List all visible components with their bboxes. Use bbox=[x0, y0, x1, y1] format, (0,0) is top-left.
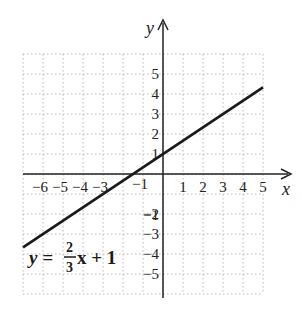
graph: y x −6−5−4−3−11234554321−1−2−3−4−5 y = 2… bbox=[0, 0, 302, 316]
equation-numerator: 2 bbox=[66, 240, 73, 255]
x-tick-label: 4 bbox=[239, 179, 247, 195]
x-tick-label: −1 bbox=[132, 176, 148, 192]
x-tick-label: 3 bbox=[219, 179, 227, 195]
equation-label: y = 2 3 x + 1 bbox=[27, 240, 116, 275]
y-tick-label: −3 bbox=[143, 226, 159, 242]
y-axis-label: y bbox=[144, 18, 154, 38]
y-tick-label: −5 bbox=[143, 266, 159, 282]
equation-lhs: y = bbox=[27, 247, 53, 268]
y-tick-label: 4 bbox=[152, 86, 160, 102]
x-tick-label: −6 bbox=[32, 179, 48, 195]
y-tick-label: 3 bbox=[152, 106, 160, 122]
x-axis-label: x bbox=[281, 179, 290, 199]
x-tick-label: 2 bbox=[199, 179, 207, 195]
x-tick-label: −4 bbox=[72, 179, 88, 195]
y-tick-label: 2 bbox=[152, 126, 160, 142]
x-tick-label: −5 bbox=[52, 179, 68, 195]
x-tick-label: 5 bbox=[259, 179, 267, 195]
y-tick-label: 5 bbox=[152, 66, 160, 82]
y-tick-label: −4 bbox=[143, 246, 159, 262]
x-tick-label: 1 bbox=[179, 179, 187, 195]
y-tick-label: −2 bbox=[143, 206, 159, 222]
equation-denominator: 3 bbox=[66, 260, 73, 275]
equation-rhs: x + 1 bbox=[77, 247, 116, 268]
